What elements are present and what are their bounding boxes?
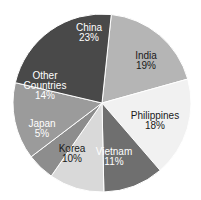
pie-chart-canvas xyxy=(0,0,201,200)
pie-slice-group xyxy=(13,14,191,192)
pie-chart-figure: India19%Philippines18%Vietnam11%Korea10%… xyxy=(0,0,201,200)
